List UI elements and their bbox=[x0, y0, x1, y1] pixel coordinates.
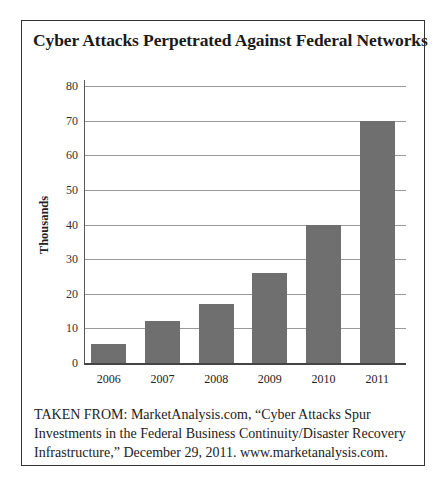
source-citation: TAKEN FROM: MarketAnalysis.com, “Cyber A… bbox=[34, 405, 419, 462]
gridline bbox=[84, 259, 406, 260]
bar-2009 bbox=[252, 273, 287, 363]
bar-2011 bbox=[360, 121, 395, 363]
y-tick-label: 20 bbox=[54, 288, 78, 300]
x-tick-label: 2009 bbox=[245, 372, 295, 387]
bar-2007 bbox=[145, 321, 180, 363]
y-tick-label: 40 bbox=[54, 219, 78, 231]
y-tick-label: 60 bbox=[54, 149, 78, 161]
y-tick-label: 70 bbox=[54, 115, 78, 127]
source-line-2: Investments in the Federal Business Cont… bbox=[34, 424, 419, 443]
x-tick-label: 2008 bbox=[191, 372, 241, 387]
bar-2010 bbox=[306, 225, 341, 364]
y-axis bbox=[84, 80, 85, 364]
y-tick-label: 80 bbox=[54, 80, 78, 92]
gridline bbox=[84, 155, 406, 156]
x-tick-label: 2011 bbox=[352, 372, 402, 387]
y-axis-label: Thousands bbox=[37, 196, 52, 254]
x-axis bbox=[84, 363, 406, 365]
y-tick-label: 50 bbox=[54, 184, 78, 196]
x-tick-label: 2010 bbox=[299, 372, 349, 387]
bar-2006 bbox=[91, 344, 126, 363]
gridline bbox=[84, 225, 406, 226]
y-tick-label: 0 bbox=[54, 357, 78, 369]
y-tick-label: 30 bbox=[54, 253, 78, 265]
x-tick-label: 2006 bbox=[84, 372, 134, 387]
gridline bbox=[84, 328, 406, 329]
gridline bbox=[84, 86, 406, 87]
source-line-1: TAKEN FROM: MarketAnalysis.com, “Cyber A… bbox=[34, 405, 419, 424]
source-line-3: Infrastructure,” December 29, 2011. www.… bbox=[34, 443, 419, 462]
chart-title: Cyber Attacks Perpetrated Against Federa… bbox=[33, 30, 428, 51]
y-tick-label: 10 bbox=[54, 322, 78, 334]
gridline bbox=[84, 121, 406, 122]
gridline bbox=[84, 190, 406, 191]
gridline bbox=[84, 294, 406, 295]
x-tick-label: 2007 bbox=[138, 372, 188, 387]
bar-2008 bbox=[199, 304, 234, 363]
